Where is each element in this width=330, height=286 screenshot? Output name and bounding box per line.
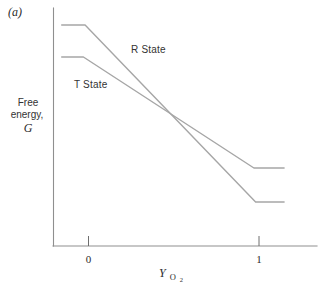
x-axis-label: Y O 2 — [159, 263, 183, 283]
x-axis-subscript-O: O — [170, 272, 176, 282]
r-state-line — [61, 25, 284, 202]
x-axis-symbol-Y: Y — [159, 266, 167, 280]
t-state-label: T State — [74, 79, 108, 90]
chart-canvas: (a) 01 R State T State Free energy, G Y … — [0, 0, 330, 286]
x-ticks: 01 — [86, 236, 262, 265]
x-tick-label: 1 — [256, 253, 262, 265]
free-energy-figure: (a) 01 R State T State Free energy, G Y … — [0, 0, 330, 286]
x-axis-subscript-2: 2 — [180, 276, 183, 283]
y-axis-label: Free energy, G — [11, 97, 44, 135]
y-axis-symbol-G: G — [24, 121, 33, 135]
panel-label: (a) — [8, 5, 22, 19]
x-tick-label: 0 — [86, 253, 92, 265]
y-axis-label-line2: energy, — [11, 109, 44, 120]
r-state-label: R State — [131, 44, 166, 55]
t-state-line — [61, 57, 284, 168]
y-axis-label-line1: Free — [18, 97, 39, 108]
